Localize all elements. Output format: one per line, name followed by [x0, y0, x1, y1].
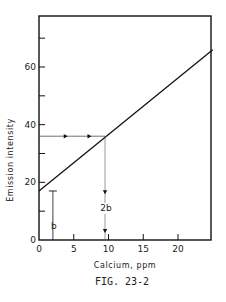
y-tick-label: 20 — [25, 177, 37, 187]
y-axis-label: Emission intensity — [6, 118, 15, 202]
x-tick-label: 5 — [71, 244, 77, 254]
x-axis-label: Calcium, ppm — [94, 261, 156, 270]
y-axis-ticks: 0204060 — [25, 38, 45, 245]
arrow-head-icon — [103, 190, 107, 194]
plot-frame — [39, 16, 211, 240]
label-b: b — [51, 221, 57, 231]
chart: 0204060 05101520 b2b Emission intensity … — [0, 0, 226, 302]
y-tick-label: 60 — [25, 62, 37, 72]
arrow-head-icon — [87, 134, 91, 138]
label-2b: 2b — [100, 203, 112, 213]
annotations: b2b — [39, 134, 112, 240]
x-tick-label: 10 — [103, 244, 115, 254]
x-tick-label: 0 — [36, 244, 42, 254]
arrow-head-icon — [103, 229, 107, 233]
x-tick-label: 20 — [172, 244, 184, 254]
figure-caption: FIG. 23-2 — [95, 276, 149, 287]
x-tick-label: 15 — [138, 244, 149, 254]
series-lines — [39, 50, 213, 191]
calibration-line — [39, 50, 213, 191]
arrow-head-icon — [64, 134, 68, 138]
y-tick-label: 40 — [25, 120, 37, 130]
x-axis-ticks: 05101520 — [36, 234, 184, 254]
